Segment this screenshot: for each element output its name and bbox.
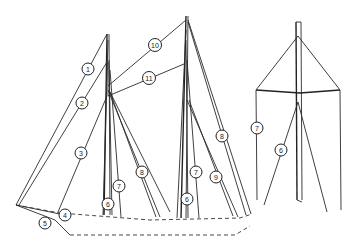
- callout-2: 2: [76, 97, 88, 109]
- svg-text:10: 10: [151, 42, 159, 49]
- callout-6-tripod: 6: [275, 144, 287, 156]
- callout-4: 4: [59, 209, 71, 221]
- callout-9: 9: [210, 171, 222, 183]
- callout-6-fore: 6: [102, 198, 114, 210]
- rigging-drawing: 1 2 3 4 5 6 7 8 10 11 6 7 9 8 7 6: [0, 0, 354, 250]
- forestays: [16, 34, 107, 212]
- callout-8-main: 8: [216, 130, 228, 142]
- svg-text:6: 6: [185, 196, 189, 203]
- svg-text:7: 7: [255, 125, 259, 132]
- svg-text:11: 11: [145, 75, 152, 82]
- callout-7-tripod: 7: [251, 122, 263, 134]
- callout-10: 10: [149, 39, 162, 52]
- callout-11: 11: [143, 72, 156, 85]
- tripod-mast-detail: [256, 22, 341, 212]
- svg-text:7: 7: [194, 169, 198, 176]
- rigging-diagram: 1 2 3 4 5 6 7 8 10 11 6 7 9 8 7 6: [0, 0, 354, 250]
- callouts: 1 2 3 4 5 6 7 8 10 11 6 7 9 8 7 6: [39, 39, 287, 230]
- svg-text:9: 9: [214, 174, 218, 181]
- callout-5: 5: [39, 217, 51, 229]
- hull: [16, 205, 252, 235]
- fore-shrouds: [103, 40, 170, 217]
- hull-bottom-line: [70, 226, 250, 235]
- svg-text:5: 5: [43, 220, 47, 227]
- svg-text:6: 6: [106, 201, 110, 208]
- callout-8-fore: 8: [136, 166, 148, 178]
- svg-text:4: 4: [63, 212, 67, 219]
- svg-text:1: 1: [86, 66, 90, 73]
- bowsprit: [16, 205, 60, 214]
- svg-text:8: 8: [220, 133, 224, 140]
- svg-text:2: 2: [80, 100, 84, 107]
- svg-text:6: 6: [279, 147, 283, 154]
- callout-7-fore: 7: [113, 180, 125, 192]
- callout-3: 3: [75, 147, 87, 159]
- callout-7-main: 7: [190, 166, 202, 178]
- svg-text:8: 8: [140, 169, 144, 176]
- callout-1: 1: [82, 63, 94, 75]
- svg-text:3: 3: [79, 150, 83, 157]
- callout-6-main: 6: [181, 193, 193, 205]
- svg-text:7: 7: [117, 183, 121, 190]
